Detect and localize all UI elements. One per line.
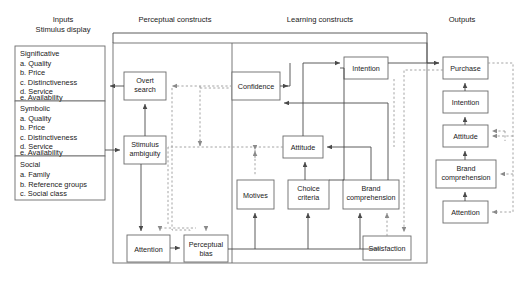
- diagram-canvas: Inputs Stimulus display Perceptual const…: [0, 0, 525, 290]
- node-brand-comprehension-learning-line1: Brand: [361, 184, 380, 193]
- output-nodes: Purchase Intention Attitude Brand compre…: [436, 57, 496, 223]
- node-purchase-label: Purchase: [450, 64, 480, 73]
- input-item: b. Reference groups: [20, 180, 87, 189]
- edge-choice-criteria-riser: [329, 68, 344, 180]
- input-item: a. Quality: [20, 114, 52, 123]
- input-item: a. Quality: [20, 59, 52, 68]
- edge-dashed-overt-search-down: [172, 88, 190, 231]
- edge-top-feedback-bus: [113, 33, 439, 63]
- input-group-title-symbolic: Symbolic: [20, 104, 50, 113]
- node-confidence-label: Confidence: [238, 82, 274, 91]
- node-brand-comprehension-learning-line2: comprehension: [346, 193, 395, 202]
- input-group-title-social: Social: [20, 160, 40, 169]
- input-group-title-significative: Significative: [20, 49, 59, 58]
- node-intention-learning-label: Intention: [352, 64, 380, 73]
- node-perceptual-bias-line1: Perceptual: [189, 240, 224, 249]
- perceptual-nodes: Overt search Stimulus ambiguity Attentio…: [124, 72, 228, 262]
- node-intention-output-label: Intention: [452, 98, 480, 107]
- input-item: a. Family: [20, 170, 50, 179]
- input-item: c. Social class: [20, 189, 67, 198]
- node-attention-output-label: Attention: [451, 208, 479, 217]
- column-headers: Inputs Stimulus display Perceptual const…: [36, 15, 476, 34]
- learning-nodes: Confidence Intention Attitude Motives Ch…: [232, 57, 411, 260]
- edge-dashed-purchase-to-satisfaction: [404, 70, 443, 232]
- header-inputs-line1: Inputs: [53, 15, 74, 24]
- node-perceptual-bias-line2: bias: [199, 249, 213, 258]
- node-choice-criteria-line1: Choice: [297, 184, 319, 193]
- edge-confidence-riser: [280, 63, 290, 86]
- input-item: b. Price: [20, 123, 45, 132]
- header-perceptual: Perceptual constructs: [138, 15, 211, 24]
- node-satisfaction-label: Satisfaction: [368, 244, 405, 253]
- node-choice-criteria-line2: criteria: [298, 193, 320, 202]
- buyer-behaviour-diagram: Inputs Stimulus display Perceptual const…: [0, 0, 525, 290]
- edge-attitude-to-intention: [303, 63, 340, 136]
- node-overt-search-line2: search: [134, 85, 156, 94]
- input-item: c. Distinctiveness: [20, 78, 77, 87]
- edge-dashed-purchase-feedback-rail: [488, 63, 513, 212]
- node-overt-search-line1: Overt: [136, 76, 154, 85]
- node-stimulus-ambiguity-line1: Stimulus: [131, 140, 159, 149]
- input-stack: Significative a. Quality b. Price c. Dis…: [15, 46, 105, 200]
- node-stimulus-ambiguity-line2: ambiguity: [130, 149, 161, 158]
- node-brand-comprehension-output-line1: Brand: [456, 164, 475, 173]
- input-item: e. Availability: [20, 148, 63, 157]
- header-learning: Learning constructs: [287, 15, 353, 24]
- node-attention-perceptual-label: Attention: [134, 245, 162, 254]
- input-item: e. Availability: [20, 93, 63, 102]
- node-motives-label: Motives: [243, 191, 268, 200]
- edge-brand-comprehension-to-attitude: [327, 147, 371, 180]
- input-item: b. Price: [20, 68, 45, 77]
- node-attitude-output-label: Attitude: [453, 132, 477, 141]
- node-attitude-learning-label: Attitude: [291, 143, 315, 152]
- node-brand-comprehension-output-line2: comprehension: [441, 173, 490, 182]
- input-item: c. Distinctiveness: [20, 133, 77, 142]
- header-inputs-line2: Stimulus display: [36, 25, 91, 34]
- header-outputs: Outputs: [449, 15, 476, 24]
